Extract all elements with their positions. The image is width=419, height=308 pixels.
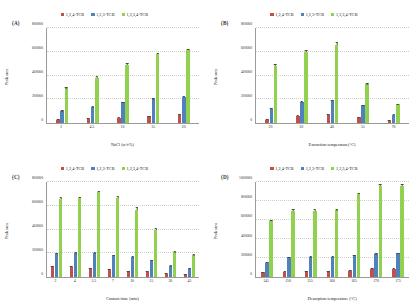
error-bar-cap [292,209,295,210]
bar-2 [65,88,69,123]
error-bar-cap [379,184,382,185]
y-tick-label: 400000 [241,234,252,238]
bar-0 [70,267,74,277]
bar-2 [269,221,273,277]
error-bar [188,49,189,50]
error-bar-cap [178,114,181,115]
error-bar-cap [266,119,269,120]
error-bar-cap [358,117,361,118]
bar-0 [388,121,392,123]
bar-wrap [165,182,169,277]
bar-0 [392,269,396,277]
error-bar-cap [327,114,330,115]
bar-wrap [379,182,383,277]
error-bar-cap [397,253,400,254]
x-tick-label: 165 [343,279,365,289]
bar-wrap [331,28,335,123]
error-bar [380,185,381,186]
error-bar-cap [184,274,187,275]
panel-a-x-axis-ticks: 24.5101520 [46,125,199,135]
bar-wrap [374,182,378,277]
legend-swatch-icon [270,13,273,16]
legend-item-2: 1,2,3,4-TCB [122,166,149,171]
error-bar [315,210,316,211]
bar-0 [283,272,287,278]
bar-2 [400,186,404,277]
bar-wrap [182,28,186,123]
legend-swatch-icon [331,167,334,170]
bar-2 [156,54,160,123]
bar-wrap [188,182,192,277]
panel-b-x-axis-ticks: 2030405570 [255,125,409,135]
bar-group [142,182,161,277]
bar-wrap [335,28,339,123]
bar-wrap [357,28,361,123]
bar-1 [93,253,97,277]
error-bar-cap [309,256,312,257]
bar-0 [370,269,374,277]
bar-2 [379,186,383,277]
legend-label: 1,2,3-TCB [96,166,114,171]
bar-2 [135,210,139,277]
bar-wrap [56,28,60,123]
bar-wrap [74,182,78,277]
panel-c-label: (C) [12,174,20,180]
bar-1 [287,257,291,277]
error-bar-cap [59,197,62,198]
legend-item-2: 1,2,3,4-TCB [331,166,358,171]
error-bar [358,193,359,194]
y-tick-label: 800000 [32,22,43,26]
bar-wrap [357,182,361,277]
x-tick-label: 160 [321,279,343,289]
bar-0 [127,271,131,277]
error-bar [367,84,368,85]
x-tick-label: 2 [46,125,77,135]
bar-group [387,182,409,277]
bar-wrap [291,182,295,277]
bar-1 [374,254,378,277]
bar-wrap [296,28,300,123]
panel-a: (A) 1,2,4-TCB1,2,3-TCB1,2,3,4-TCB Peak a… [0,0,209,154]
bar-wrap [121,28,125,123]
panel-c-legend: 1,2,4-TCB1,2,3-TCB1,2,3,4-TCB [0,166,209,171]
y-tick-label: 1000000 [239,176,252,180]
panel-a-y-axis-ticks: 0200000400000600000800000 [0,28,46,124]
legend-swatch-icon [91,167,94,170]
legend-item-1: 1,2,3-TCB [91,166,114,171]
bar-0 [305,271,309,277]
legend-label: 1,2,3-TCB [306,12,324,17]
error-bar-cap [366,83,369,84]
bar-group [322,182,344,277]
bar-0 [51,266,55,277]
error-bar-cap [388,120,391,121]
bar-0 [265,120,269,123]
bar-0 [117,118,121,123]
error-bar [66,88,67,89]
error-bar-cap [371,268,374,269]
legend-swatch-icon [301,13,304,16]
error-bar-cap [61,110,64,111]
bar-wrap [117,28,121,123]
y-tick-label: 400000 [241,70,252,74]
error-bar-cap [188,268,191,269]
bar-2 [357,194,361,277]
bar-2 [59,199,63,277]
bar-wrap [305,182,309,277]
error-bar-cap [118,117,121,118]
y-tick-label: 400000 [32,224,43,228]
legend-label: 1,2,4-TCB [275,166,293,171]
bar-wrap [300,28,304,123]
bar-wrap [95,28,99,123]
error-bar [402,185,403,186]
panel-b: (B) 1,2,4-TCB1,2,3-TCB1,2,3,4-TCB Peak a… [209,0,419,154]
y-tick-label: 0 [250,272,252,276]
error-bar-cap [148,116,151,117]
error-bar-cap [169,265,172,266]
legend-swatch-icon [122,167,125,170]
bar-wrap [112,182,116,277]
x-tick-label: 30 [161,279,180,289]
bar-1 [55,253,59,277]
bar-0 [108,269,112,277]
error-bar-cap [127,271,130,272]
panel-c-y-axis-ticks: 0200000400000600000800000 [0,182,46,278]
